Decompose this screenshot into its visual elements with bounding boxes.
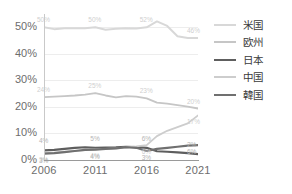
data-point-label: 2%	[187, 141, 196, 148]
legend-swatch-icon	[214, 94, 236, 96]
chart-caption	[4, 187, 288, 194]
chart-legend: 米国欧州日本中国韓国	[214, 16, 292, 104]
data-point-label: 50%	[88, 16, 101, 23]
legend-item-label: 韓国	[243, 90, 263, 101]
legend-item-1[interactable]: 米国	[214, 16, 292, 34]
legend-swatch-icon	[214, 41, 236, 43]
x-axis-line	[44, 160, 199, 161]
x-axis-tick-label: 2021	[175, 164, 221, 176]
y-axis-tick-label: 10%	[0, 126, 37, 138]
data-point-label: 6%	[142, 135, 151, 142]
series-lines	[44, 14, 198, 160]
legend-swatch-icon	[214, 76, 236, 78]
plot-area: 50%50%52%46%24%25%23%20%4%5%6%2%3%4%6%17…	[44, 14, 198, 160]
data-point-label: 25%	[88, 82, 101, 89]
line-chart: 0%10%20%30%40%50% 50%50%52%46%24%25%23%2…	[0, 0, 292, 194]
y-axis-line	[44, 14, 45, 160]
data-point-label: 52%	[140, 16, 153, 23]
x-axis-tick-label: 2006	[21, 164, 67, 176]
y-axis-tick-label: 50%	[0, 20, 37, 32]
data-point-label: 46%	[187, 27, 200, 34]
legend-swatch-icon	[214, 24, 236, 26]
series-line	[44, 21, 198, 37]
legend-item-label: 日本	[243, 55, 263, 66]
data-point-label: 23%	[140, 87, 153, 94]
legend-item-label: 米国	[243, 20, 263, 31]
data-point-label: 4%	[90, 153, 99, 160]
y-axis-tick-label: 40%	[0, 47, 37, 59]
y-axis-tick-label: 30%	[0, 73, 37, 85]
series-line	[44, 93, 198, 108]
x-axis-tick-label: 2016	[124, 164, 170, 176]
legend-item-5[interactable]: 韓国	[214, 86, 292, 104]
data-point-label: 5%	[90, 135, 99, 142]
legend-item-2[interactable]: 欧州	[214, 34, 292, 52]
legend-item-label: 中国	[243, 72, 263, 83]
legend-swatch-icon	[214, 59, 236, 61]
legend-item-3[interactable]: 日本	[214, 51, 292, 69]
data-point-label: 20%	[187, 98, 200, 105]
data-point-label: 17%	[187, 118, 200, 125]
legend-item-label: 欧州	[243, 37, 263, 48]
data-point-label: 6%	[187, 148, 196, 155]
legend-item-4[interactable]: 中国	[214, 69, 292, 87]
y-axis-tick-label: 20%	[0, 100, 37, 112]
x-axis-tick-label: 2011	[72, 164, 118, 176]
